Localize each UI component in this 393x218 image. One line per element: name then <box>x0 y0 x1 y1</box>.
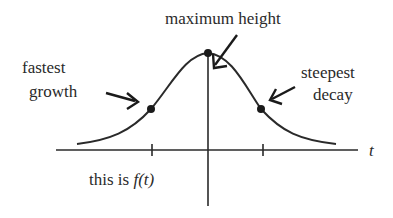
label-maximum-height: maximum height <box>165 9 281 28</box>
label-decay: decay <box>313 85 353 104</box>
function-label-func: f(t) <box>133 170 154 189</box>
inflection-left-dot <box>147 105 155 113</box>
arrow-steepest-decay <box>270 87 295 104</box>
inflection-right-dot <box>257 105 265 113</box>
axis-label-t: t <box>369 141 375 160</box>
function-label-prefix: this is <box>89 170 133 189</box>
function-label: this is f(t) <box>89 170 155 189</box>
arrow-fastest-growth <box>106 93 138 109</box>
bell-curve <box>77 53 336 144</box>
label-steepest: steepest <box>301 63 355 82</box>
label-fastest: fastest <box>22 58 66 77</box>
label-growth: growth <box>29 82 78 101</box>
bell-curve-diagram: fastest growth maximum height steepest d… <box>0 0 393 218</box>
maximum-dot <box>204 49 212 57</box>
arrow-maximum-height <box>213 35 237 68</box>
